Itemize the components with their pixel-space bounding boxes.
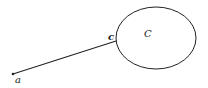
region-C-ellipse <box>116 7 196 69</box>
diagram-canvas: a c C <box>0 0 208 88</box>
label-point-c: c <box>108 31 114 42</box>
diagram-svg: a c C <box>0 0 208 88</box>
point-a-dot <box>12 73 15 76</box>
label-region-C: C <box>144 28 152 39</box>
segment-a-c <box>13 41 116 74</box>
label-point-a: a <box>15 74 21 85</box>
